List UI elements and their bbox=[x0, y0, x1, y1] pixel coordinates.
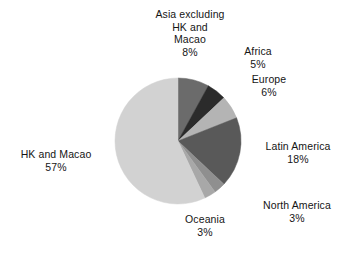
slice-label-hk-name: HK and Macao bbox=[21, 148, 92, 160]
slice-label-europe-name: Europe bbox=[252, 73, 286, 85]
slice-value-north: 3% bbox=[250, 212, 344, 225]
slice-label-north-name: North America bbox=[263, 199, 331, 211]
slice-label-africa-name: Africa bbox=[244, 45, 271, 57]
slice-value-hk: 57% bbox=[4, 161, 108, 174]
slice-value-africa: 5% bbox=[228, 58, 288, 71]
pie-chart-figure: Asia excluding HK and Macao 8% Africa 5%… bbox=[0, 0, 346, 255]
slice-label-latin-america: Latin America 18% bbox=[252, 140, 344, 165]
pie-slice-group bbox=[115, 78, 241, 204]
slice-label-asia-line3: Macao bbox=[174, 33, 206, 45]
slice-value-europe: 6% bbox=[238, 86, 300, 99]
slice-label-oceania-name: Oceania bbox=[185, 213, 225, 225]
slice-label-oceania: Oceania 3% bbox=[176, 213, 234, 238]
slice-label-hk-and-macao: HK and Macao 57% bbox=[4, 148, 108, 173]
slice-label-asia-line1: Asia excluding bbox=[155, 8, 224, 20]
slice-label-north-america: North America 3% bbox=[250, 199, 344, 224]
slice-label-asia-excluding-hk-and-macao: Asia excluding HK and Macao 8% bbox=[138, 8, 242, 58]
slice-value-oceania: 3% bbox=[176, 226, 234, 239]
slice-label-latin-name: Latin America bbox=[266, 140, 331, 152]
slice-value-asia: 8% bbox=[138, 46, 242, 59]
slice-value-latin: 18% bbox=[252, 153, 344, 166]
slice-label-asia-line2: HK and bbox=[172, 21, 208, 33]
slice-label-europe: Europe 6% bbox=[238, 73, 300, 98]
slice-label-africa: Africa 5% bbox=[228, 45, 288, 70]
